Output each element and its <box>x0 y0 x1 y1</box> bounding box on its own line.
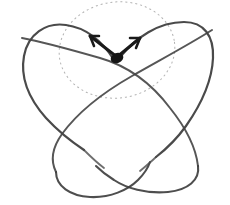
figure-canvas: Hand-drawn immersed curve with a double … <box>0 0 230 205</box>
knot-diagram-svg <box>0 0 230 205</box>
